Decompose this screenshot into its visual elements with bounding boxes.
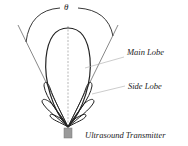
transmitter-label: Ultrasound Transmitter <box>85 130 166 140</box>
angle-arc <box>26 8 113 42</box>
main-lobe <box>46 28 91 127</box>
angle-theta-label: θ <box>64 2 68 12</box>
main-lobe-label: Main Lobe <box>127 47 164 57</box>
beam-pattern-diagram <box>0 0 188 146</box>
transmitter-block <box>64 128 72 138</box>
side-lobe-leader <box>92 86 125 94</box>
side-lobe-label: Side Lobe <box>128 81 162 91</box>
